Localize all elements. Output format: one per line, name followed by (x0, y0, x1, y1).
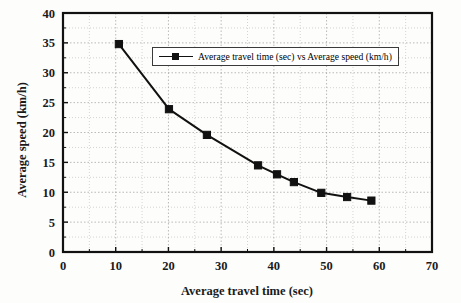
data-point-marker (368, 197, 375, 204)
y-tick-label: 10 (43, 186, 56, 200)
chart-figure: 010203040506070 0510152025303540 Average… (0, 0, 461, 303)
y-tick-label: 0 (49, 246, 55, 260)
data-point-marker (318, 189, 325, 196)
legend-line-marker-sample (159, 52, 193, 62)
chart-legend: Average travel time (sec) vs Average spe… (152, 47, 399, 66)
y-tick-label: 15 (43, 156, 56, 170)
data-point-marker (203, 131, 210, 138)
y-tick-label: 40 (43, 7, 56, 21)
chart-canvas: 010203040506070 0510152025303540 Average… (0, 0, 461, 303)
x-tick-label: 60 (373, 259, 386, 273)
y-axis-title: Average speed (km/h) (15, 82, 29, 198)
x-tick-label: 10 (109, 259, 122, 273)
y-tick-label: 5 (49, 216, 55, 230)
y-tick-label: 25 (43, 96, 56, 110)
x-tick-label: 40 (268, 259, 281, 273)
data-point-marker (254, 162, 261, 169)
data-point-marker (344, 193, 351, 200)
x-tick-label: 20 (162, 259, 175, 273)
data-point-marker (115, 40, 122, 47)
y-tick-label: 20 (43, 126, 56, 140)
x-tick-label: 70 (426, 259, 439, 273)
x-tick-label: 0 (60, 259, 66, 273)
legend-entry-label: Average travel time (sec) vs Average spe… (198, 51, 392, 62)
y-axis-tick-labels: 0510152025303540 (43, 7, 56, 260)
x-tick-label: 50 (320, 259, 333, 273)
data-point-marker (165, 106, 172, 113)
x-tick-label: 30 (215, 259, 228, 273)
y-tick-label: 35 (43, 36, 56, 50)
x-axis-title: Average travel time (sec) (181, 284, 313, 298)
x-axis-tick-labels: 010203040506070 (60, 259, 438, 273)
data-point-marker (273, 171, 280, 178)
y-tick-label: 30 (43, 66, 56, 80)
data-point-marker (290, 178, 297, 185)
